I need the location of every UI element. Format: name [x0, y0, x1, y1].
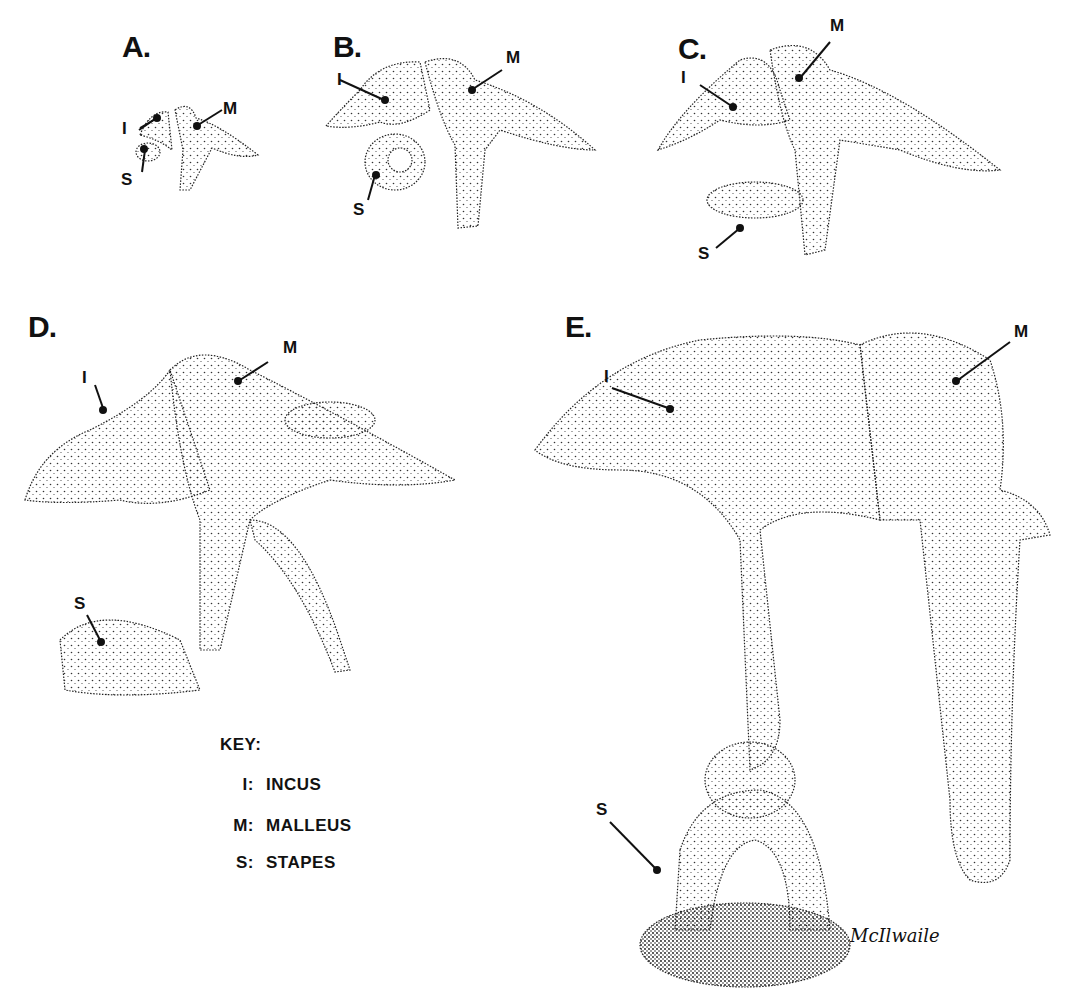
callout-e-stapes: S: [596, 800, 607, 820]
panel-e-drawing: [535, 333, 1050, 987]
key-title: KEY:: [220, 735, 261, 755]
callout-a-stapes: S: [121, 170, 132, 190]
callout-d-malleus: M: [283, 338, 297, 358]
panel-label-c: C.: [678, 32, 706, 66]
panel-d-drawing: [25, 355, 455, 695]
callout-e-malleus: M: [1014, 322, 1028, 342]
callout-d-incus: I: [82, 368, 87, 388]
artist-signature: McIlwaile: [850, 925, 940, 946]
key-abbr: S:: [220, 853, 254, 873]
callout-d-stapes: S: [74, 594, 85, 614]
panel-b-drawing: [326, 59, 595, 228]
panel-label-a: A.: [122, 30, 150, 64]
callout-c-stapes: S: [698, 244, 709, 264]
key-name: INCUS: [266, 775, 321, 794]
ossicles-illustration: [0, 0, 1080, 1001]
key-abbr: I:: [220, 775, 254, 795]
panel-label-b: B.: [333, 30, 361, 64]
key-item-stapes: S:STAPES: [220, 853, 336, 873]
callout-a-incus: I: [122, 119, 127, 139]
panel-label-d: D.: [28, 310, 56, 344]
panel-label-e: E.: [565, 310, 591, 344]
callout-b-malleus: M: [506, 48, 520, 68]
callout-b-stapes: S: [353, 200, 364, 220]
callout-a-malleus: M: [223, 99, 237, 119]
key-item-incus: I:INCUS: [220, 775, 321, 795]
panel-c-drawing: [658, 46, 1000, 256]
callout-b-incus: I: [337, 70, 342, 90]
callout-e-incus: I: [604, 367, 609, 387]
key-abbr: M:: [220, 816, 254, 836]
key-item-malleus: M:MALLEUS: [220, 816, 352, 836]
callout-c-malleus: M: [830, 16, 844, 36]
key-name: STAPES: [266, 853, 336, 872]
key-name: MALLEUS: [266, 816, 352, 835]
callout-c-incus: I: [681, 68, 686, 88]
